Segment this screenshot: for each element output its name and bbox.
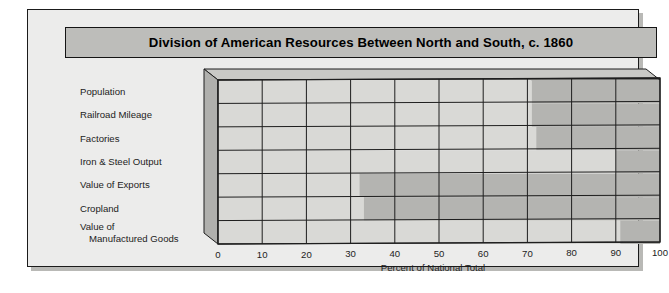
bar-segment-south-value-of-manufactured-goods — [218, 221, 620, 244]
x-tick-100: 100 — [652, 247, 668, 258]
x-tick-90: 90 — [610, 247, 621, 258]
x-tick-40: 40 — [389, 248, 400, 259]
bar-segment-north-population — [532, 80, 660, 103]
x-tick-80: 80 — [566, 247, 577, 258]
bar-segment-north-value-of-exports — [359, 174, 660, 197]
category-label-cropland: Cropland — [80, 203, 205, 215]
bar-segment-south-cropland — [218, 197, 364, 220]
chart-title-band: Division of American Resources Between N… — [65, 27, 657, 58]
x-tick-10: 10 — [257, 249, 268, 260]
chart-title: Division of American Resources Between N… — [149, 35, 573, 50]
figure-root: Division of American Resources Between N… — [0, 0, 669, 293]
category-label-column: PopulationRailroad MileageFactoriesIron … — [80, 76, 205, 248]
category-label-value-of-manufactured-goods: Value ofManufactured Goods — [80, 221, 205, 244]
category-label-iron-steel-output: Iron & Steel Output — [80, 156, 205, 168]
x-tick-30: 30 — [345, 248, 356, 259]
bar-segment-south-iron-steel-output — [218, 150, 616, 173]
bar-segment-south-population — [218, 80, 532, 103]
bar-segment-north-factories — [536, 127, 660, 150]
x-tick-70: 70 — [522, 248, 533, 259]
chart-card: Division of American Resources Between N… — [27, 9, 639, 267]
x-tick-0: 0 — [215, 249, 220, 260]
bar-segment-north-railroad-mileage — [532, 103, 660, 126]
x-tick-20: 20 — [301, 249, 312, 260]
category-label-population: Population — [80, 86, 205, 98]
category-label-railroad-mileage: Railroad Mileage — [80, 109, 205, 121]
x-tick-60: 60 — [478, 248, 489, 259]
category-label-factories: Factories — [80, 133, 205, 145]
x-tick-50: 50 — [434, 248, 445, 259]
x-axis-ticks: 0102030405060708090100 — [203, 249, 663, 263]
bar-segment-south-railroad-mileage — [218, 103, 532, 126]
bar-segment-south-value-of-exports — [218, 174, 359, 197]
bar-segment-south-factories — [218, 127, 536, 150]
chart-plot-area — [203, 68, 663, 250]
category-label-value-of-exports: Value of Exports — [80, 179, 205, 191]
x-axis-title: Percent of National Total — [203, 262, 663, 273]
chart-left-wall — [204, 69, 218, 244]
bar-segment-north-iron-steel-output — [616, 150, 660, 173]
bar-segment-north-value-of-manufactured-goods — [620, 221, 660, 244]
